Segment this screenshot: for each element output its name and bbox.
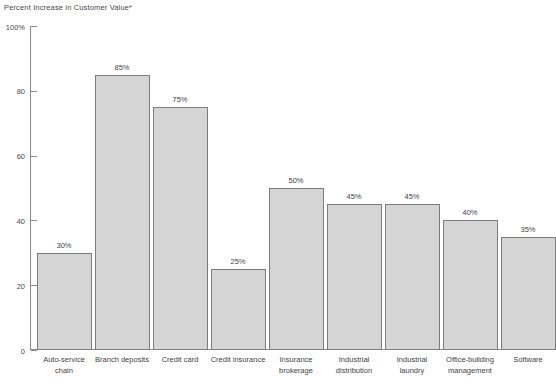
category-label-line: Office-building (437, 354, 503, 365)
bar-value-label: 25% (211, 257, 266, 266)
category-label-line: laundry (379, 365, 445, 376)
x-axis-category-labels: Auto-servicechainBranch depositsCredit c… (30, 354, 552, 384)
bar[interactable] (501, 237, 556, 350)
plot-area: 020406080100% 30%85%75%25%50%45%45%40%35… (30, 26, 552, 350)
bar-slot: 40% (443, 26, 498, 350)
bar-value-label: 85% (95, 63, 150, 72)
bar-value-label: 30% (37, 241, 92, 250)
x-axis-category-label: Insurancebrokerage (263, 354, 329, 376)
bar-slot: 50% (269, 26, 324, 350)
bar-value-label: 35% (501, 225, 556, 234)
x-axis-category-label: Credit card (147, 354, 213, 365)
bar-slot: 85% (95, 26, 150, 350)
x-axis-category-label: Credit insurance (205, 354, 271, 365)
category-label-line: Insurance (263, 354, 329, 365)
x-axis-category-label: Auto-servicechain (31, 354, 97, 376)
bar-value-label: 45% (385, 192, 440, 201)
bar-chart: Percent Increase in Customer Value* 0204… (0, 0, 556, 384)
x-axis-category-label: Industriallaundry (379, 354, 445, 376)
y-axis-tick-mark (31, 350, 37, 351)
bar-value-label: 75% (153, 95, 208, 104)
category-label-line: distribution (321, 365, 387, 376)
y-axis-tick-label: 100% (6, 22, 25, 31)
y-axis-tick-label: 0 (21, 346, 25, 355)
x-axis-category-label: Office-buildingmanagement (437, 354, 503, 376)
bar-series: 30%85%75%25%50%45%45%40%35% (30, 26, 552, 350)
bar-slot: 35% (501, 26, 556, 350)
bar[interactable] (211, 269, 266, 350)
y-axis-tick-label: 80 (17, 87, 25, 96)
bar-slot: 45% (385, 26, 440, 350)
x-axis-category-label: Software (495, 354, 556, 365)
bar-value-label: 45% (327, 192, 382, 201)
bar[interactable] (37, 253, 92, 350)
category-label-line: Branch deposits (89, 354, 155, 365)
x-axis-category-label: Branch deposits (89, 354, 155, 365)
y-axis-tick: 0 (30, 350, 38, 351)
bar-slot: 25% (211, 26, 266, 350)
bar[interactable] (153, 107, 208, 350)
bar[interactable] (95, 75, 150, 350)
category-label-line: Auto-service (31, 354, 97, 365)
bar[interactable] (443, 220, 498, 350)
category-label-line: Credit card (147, 354, 213, 365)
y-axis-tick-label: 40 (17, 216, 25, 225)
category-label-line: Industrial (379, 354, 445, 365)
category-label-line: brokerage (263, 365, 329, 376)
bar[interactable] (385, 204, 440, 350)
category-label-line: Software (495, 354, 556, 365)
category-label-line: Credit insurance (205, 354, 271, 365)
category-label-line: management (437, 365, 503, 376)
bar-slot: 75% (153, 26, 208, 350)
y-axis-tick-label: 20 (17, 281, 25, 290)
bar-slot: 30% (37, 26, 92, 350)
category-label-line: chain (31, 365, 97, 376)
bar[interactable] (327, 204, 382, 350)
bar[interactable] (269, 188, 324, 350)
category-label-line: Industrial (321, 354, 387, 365)
x-axis-category-label: Industrialdistribution (321, 354, 387, 376)
y-axis-tick-label: 60 (17, 152, 25, 161)
bar-value-label: 40% (443, 208, 498, 217)
chart-title: Percent Increase in Customer Value* (4, 3, 132, 12)
bar-slot: 45% (327, 26, 382, 350)
bar-value-label: 50% (269, 176, 324, 185)
